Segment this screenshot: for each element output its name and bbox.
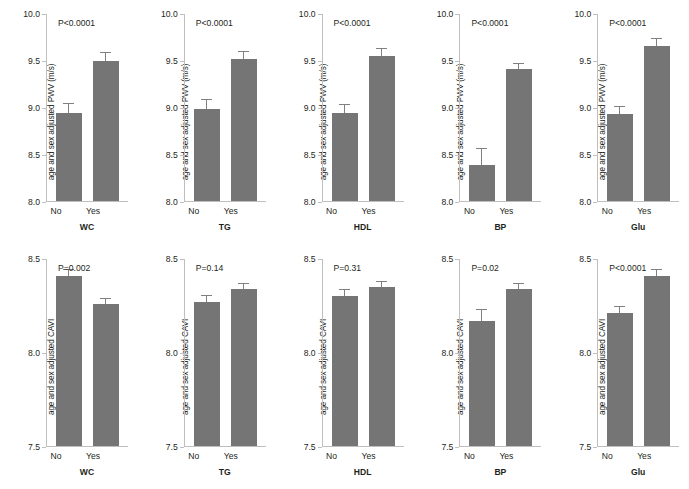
bar-group: [598, 14, 679, 201]
bar-slot-yes[interactable]: [644, 259, 670, 446]
bar[interactable]: [56, 113, 82, 201]
error-bar-cap: [201, 99, 212, 100]
bar-slot-no[interactable]: [194, 14, 220, 201]
bar[interactable]: [231, 59, 257, 201]
bar-slot-yes[interactable]: [93, 259, 119, 446]
panel-row-cavi: age and sex adjusted CAVI7.58.08.5P=0.00…: [0, 245, 689, 489]
bar-slot-no[interactable]: [194, 259, 220, 446]
y-tick-mark: [455, 202, 459, 203]
p-value-annotation: P<0.0001: [58, 18, 95, 28]
bar[interactable]: [506, 69, 532, 201]
bar-slot-no[interactable]: [332, 259, 358, 446]
bar-slot-yes[interactable]: [506, 259, 532, 446]
bar-slot-no[interactable]: [332, 14, 358, 201]
bar-slot-no[interactable]: [607, 14, 633, 201]
y-tick-mark: [318, 108, 322, 109]
error-bar-cap: [63, 103, 74, 104]
y-tick-mark: [42, 353, 46, 354]
error-bar-cap: [376, 48, 387, 49]
bar-slot-no[interactable]: [607, 259, 633, 446]
bar[interactable]: [194, 302, 220, 446]
y-tick-label: 9.0: [441, 103, 453, 113]
error-bar-line: [518, 284, 519, 289]
bar-slot-no[interactable]: [469, 259, 495, 446]
bar-slot-yes[interactable]: [506, 14, 532, 201]
x-category-label-yes: Yes: [352, 451, 386, 461]
bar-slot-no[interactable]: [56, 259, 82, 446]
y-tick-label: 8.5: [304, 150, 316, 160]
bar-slot-yes[interactable]: [644, 14, 670, 201]
x-category-label-no: No: [452, 451, 486, 461]
y-tick-label: 8.5: [166, 150, 178, 160]
bar[interactable]: [93, 304, 119, 446]
bar-slot-yes[interactable]: [93, 14, 119, 201]
plot-area: 7.58.08.5: [184, 259, 266, 447]
y-tick-label: 9.5: [28, 56, 40, 66]
y-tick-label: 9.5: [166, 56, 178, 66]
p-value-annotation: P<0.0001: [609, 263, 646, 273]
bar[interactable]: [369, 287, 395, 446]
y-tick-mark: [180, 353, 184, 354]
bar-group: [598, 259, 679, 446]
bar[interactable]: [469, 321, 495, 446]
bar[interactable]: [469, 165, 495, 201]
error-bar-cap: [339, 289, 350, 290]
y-tick-mark: [593, 14, 597, 15]
x-category-label-no: No: [39, 206, 73, 216]
y-tick-label: 8.0: [166, 348, 178, 358]
x-axis-title: WC: [46, 222, 128, 232]
bar[interactable]: [93, 61, 119, 201]
panel-row-pwv: age and sex adjusted PWV (m/s)8.08.59.09…: [0, 0, 689, 244]
y-tick-mark: [455, 108, 459, 109]
error-bar-cap: [651, 269, 662, 270]
bar-slot-yes[interactable]: [369, 259, 395, 446]
y-tick-mark: [42, 259, 46, 260]
bar[interactable]: [332, 113, 358, 201]
x-axis-baseline: [597, 446, 679, 447]
y-tick-label: 9.0: [304, 103, 316, 113]
y-tick-mark: [318, 353, 322, 354]
bar-slot-yes[interactable]: [231, 14, 257, 201]
y-tick-label: 8.5: [579, 150, 591, 160]
bar-group: [185, 14, 266, 201]
p-value-annotation: P<0.0001: [471, 18, 508, 28]
y-tick-label: 8.5: [441, 254, 453, 264]
y-tick-mark: [180, 447, 184, 448]
y-tick-label: 9.0: [579, 103, 591, 113]
error-bar-line: [481, 149, 482, 165]
x-axis-title: Glu: [597, 222, 679, 232]
bar[interactable]: [607, 313, 633, 446]
bar[interactable]: [332, 296, 358, 446]
bar[interactable]: [231, 289, 257, 446]
x-category-label-yes: Yes: [489, 451, 523, 461]
bar-slot-no[interactable]: [469, 14, 495, 201]
y-tick-mark: [455, 259, 459, 260]
figure-footnote-clipped: [6, 485, 684, 489]
panel-cavi-bp: age and sex adjusted CAVI7.58.08.5P=0.02…: [413, 245, 551, 489]
x-axis-baseline: [184, 201, 266, 202]
bar[interactable]: [369, 56, 395, 201]
error-bar-cap: [614, 306, 625, 307]
error-bar-line: [619, 107, 620, 114]
y-tick-label: 9.5: [304, 56, 316, 66]
bar-group: [460, 14, 541, 201]
p-value-annotation: P<0.0001: [609, 18, 646, 28]
p-value-annotation: P<0.0001: [196, 18, 233, 28]
error-bar-line: [105, 53, 106, 60]
error-bar-cap: [100, 298, 111, 299]
bar[interactable]: [644, 276, 670, 446]
error-bar-line: [243, 52, 244, 59]
y-tick-label: 8.5: [28, 254, 40, 264]
y-tick-mark: [593, 108, 597, 109]
bar-slot-yes[interactable]: [231, 259, 257, 446]
bar[interactable]: [506, 289, 532, 446]
bar-slot-yes[interactable]: [369, 14, 395, 201]
bar[interactable]: [56, 276, 82, 446]
bar-slot-no[interactable]: [56, 14, 82, 201]
error-bar-line: [68, 104, 69, 113]
bar[interactable]: [607, 114, 633, 201]
bar[interactable]: [644, 46, 670, 201]
y-tick-label: 9.5: [579, 56, 591, 66]
x-category-label-no: No: [452, 206, 486, 216]
bar[interactable]: [194, 109, 220, 201]
